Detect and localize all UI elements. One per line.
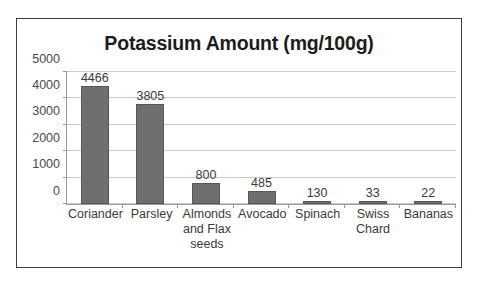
bar-slot[interactable]: 800 xyxy=(178,72,234,204)
y-axis-tick-label: 2000 xyxy=(32,131,60,145)
bar[interactable] xyxy=(248,191,276,204)
bar-value-label: 33 xyxy=(366,186,380,200)
bar-series: 446638058004851303322 xyxy=(67,72,456,204)
bar-value-label: 22 xyxy=(421,186,435,200)
bar[interactable] xyxy=(81,86,109,204)
x-axis-category-label: Avocado xyxy=(235,207,290,252)
bar-slot[interactable]: 33 xyxy=(345,72,401,204)
bar-slot[interactable]: 130 xyxy=(289,72,345,204)
y-axis-tick-label: 1000 xyxy=(32,157,60,171)
bar[interactable] xyxy=(303,201,331,204)
bar-value-label: 130 xyxy=(307,186,328,200)
bar-slot[interactable]: 485 xyxy=(234,72,290,204)
bar-slot[interactable]: 22 xyxy=(400,72,456,204)
x-axis-category-labels: CorianderParsleyAlmonds and Flax seedsAv… xyxy=(67,207,456,252)
bar[interactable] xyxy=(359,201,387,204)
chart-frame: Potassium Amount (mg/100g) 0100020003000… xyxy=(16,18,462,268)
y-axis-tick-label: 4000 xyxy=(32,78,60,92)
x-axis-category-label: Bananas xyxy=(401,207,456,252)
bar-value-label: 4466 xyxy=(81,71,109,85)
bar[interactable] xyxy=(192,183,220,204)
bar-value-label: 800 xyxy=(196,168,217,182)
x-axis-category-label: Coriander xyxy=(67,207,124,252)
bar[interactable] xyxy=(414,201,442,204)
y-axis-tick-label: 3000 xyxy=(32,104,60,118)
x-axis-category-label: Spinach xyxy=(290,207,345,252)
x-axis-category-label: Swiss Chard xyxy=(345,207,400,252)
bar[interactable] xyxy=(136,104,164,204)
chart-title: Potassium Amount (mg/100g) xyxy=(17,32,461,55)
x-axis-category-label: Almonds and Flax seeds xyxy=(179,207,234,252)
bar-slot[interactable]: 3805 xyxy=(123,72,179,204)
bar-value-label: 3805 xyxy=(136,89,164,103)
bar-slot[interactable]: 4466 xyxy=(67,72,123,204)
x-axis-category-label: Parsley xyxy=(124,207,179,252)
x-axis-line xyxy=(66,204,456,205)
bar-value-label: 485 xyxy=(251,176,272,190)
y-axis-tick-label: 0 xyxy=(53,184,60,198)
y-axis-tick-label: 5000 xyxy=(32,52,60,66)
plot-area: 010002000300040005000 446638058004851303… xyxy=(67,72,456,204)
